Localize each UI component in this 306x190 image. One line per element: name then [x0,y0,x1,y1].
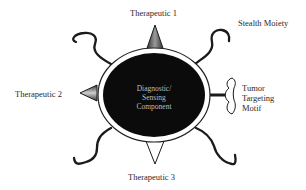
stealth-chain-top-right [195,30,229,64]
label-tumor-targeting-motif: Tumor Targeting Motif [242,84,274,113]
core-label: Diagnostic/ Sensing Component [119,84,189,111]
core-label-line-3: Component [119,102,189,111]
diagram: Therapeutic 1 Stealth Moiety Therapeutic… [0,0,306,190]
tumor-motif-bracket [225,78,235,114]
label-stealth-moiety: Stealth Moiety [238,19,288,29]
label-therapeutic-1: Therapeutic 1 [130,9,177,19]
stealth-chain-bottom-right [196,128,236,164]
label-therapeutic-2: Therapeutic 2 [15,90,62,100]
core-label-line-2: Sensing [119,93,189,102]
stealth-chain-top-left [73,33,111,64]
stealth-chain-bottom-left [74,128,111,164]
core-label-line-1: Diagnostic/ [119,84,189,93]
label-therapeutic-3: Therapeutic 3 [128,173,175,183]
therapeutic-2-triangle [80,85,97,101]
tumor-label-line-3: Motif [242,104,274,114]
